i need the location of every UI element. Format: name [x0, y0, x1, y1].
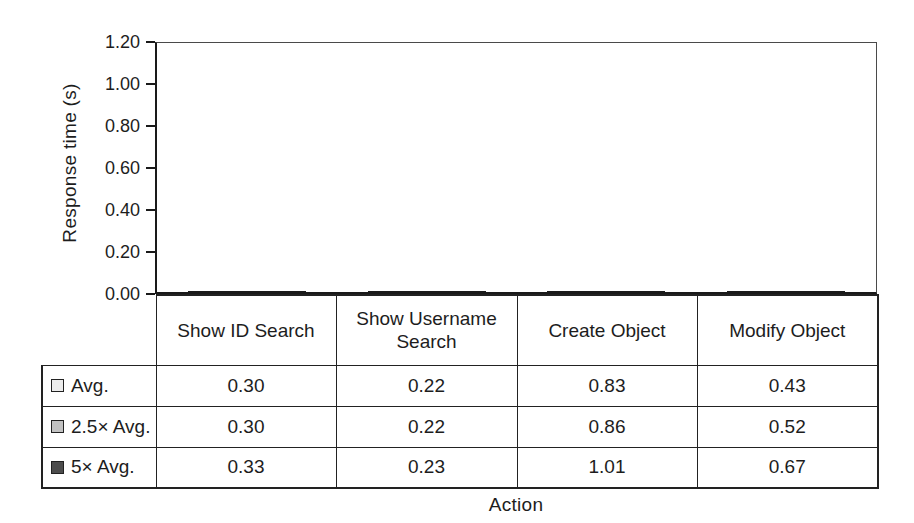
y-axis-title: Response time (s) [59, 83, 81, 242]
x-axis-title: Action [489, 494, 544, 516]
y-axis-tick-labels: 0.000.200.400.600.801.001.20 [88, 42, 140, 294]
value-cell-5-avg-show-id-search: 0.33 [156, 447, 336, 488]
category-header-create-object: Create Object [517, 295, 697, 365]
legend-cell-2-5-avg: 2.5× Avg. [42, 406, 156, 447]
value-cell-5-avg-modify-object: 0.67 [697, 447, 878, 488]
series-row-2-5-avg: 2.5× Avg.0.300.220.860.52 [42, 406, 878, 447]
bar-2-5-avg-show-username-search [407, 291, 447, 292]
bar-group-show-username-search [368, 291, 486, 292]
value-cell-avg-show-id-search: 0.30 [156, 365, 336, 406]
legend-cell-avg: Avg. [42, 365, 156, 406]
bar-chart-figure: Response time (s) 0.000.200.400.600.801.… [0, 0, 914, 523]
y-tick-label-0.40: 0.40 [105, 200, 140, 221]
bar-group-create-object [547, 291, 665, 292]
category-header-show-username-search: Show Username Search [336, 295, 517, 365]
legend-entry: 2.5× Avg. [43, 416, 156, 438]
value-cell-2-5-avg-modify-object: 0.52 [697, 406, 878, 447]
value-cell-2-5-avg-show-id-search: 0.30 [156, 406, 336, 447]
category-header-row: Show ID SearchShow Username SearchCreate… [42, 295, 878, 365]
y-axis-tick-marks [146, 42, 155, 294]
bar-avg-modify-object [727, 291, 767, 292]
y-tick-label-1.00: 1.00 [105, 74, 140, 95]
legend-entry: 5× Avg. [43, 456, 156, 478]
y-tick-label-0.20: 0.20 [105, 241, 140, 262]
plot-area [155, 42, 877, 294]
bar-5-avg-create-object [625, 291, 665, 292]
bar-group-show-id-search [188, 291, 306, 292]
y-tick-mark [146, 83, 155, 85]
bar-5-avg-show-username-search [446, 291, 486, 292]
y-tick-label-0.80: 0.80 [105, 115, 140, 136]
value-cell-2-5-avg-create-object: 0.86 [517, 406, 697, 447]
y-tick-label-0.60: 0.60 [105, 158, 140, 179]
legend-cell-5-avg: 5× Avg. [42, 447, 156, 488]
legend-label: 2.5× Avg. [71, 416, 150, 438]
y-tick-mark [146, 167, 155, 169]
legend-label: 5× Avg. [71, 456, 135, 478]
category-header-label: Create Object [548, 319, 665, 342]
category-header-modify-object: Modify Object [697, 295, 878, 365]
bar-2-5-avg-show-id-search [227, 291, 267, 292]
legend-swatch-avg [51, 379, 64, 392]
bar-group-modify-object [727, 291, 845, 292]
y-tick-mark [146, 41, 155, 43]
bar-5-avg-show-id-search [266, 291, 306, 292]
bar-avg-show-id-search [188, 291, 228, 292]
value-cell-5-avg-create-object: 1.01 [517, 447, 697, 488]
category-header-show-id-search: Show ID Search [156, 295, 336, 365]
y-tick-mark [146, 251, 155, 253]
y-tick-mark [146, 209, 155, 211]
bar-2-5-avg-create-object [586, 291, 626, 292]
series-row-avg: Avg.0.300.220.830.43 [42, 365, 878, 406]
value-cell-avg-create-object: 0.83 [517, 365, 697, 406]
bar-5-avg-modify-object [805, 291, 845, 292]
y-tick-mark [146, 125, 155, 127]
bar-avg-show-username-search [368, 291, 408, 292]
series-row-5-avg: 5× Avg.0.330.231.010.67 [42, 447, 878, 488]
legend-entry: Avg. [43, 375, 156, 397]
value-cell-2-5-avg-show-username-search: 0.22 [336, 406, 517, 447]
category-header-label: Modify Object [729, 319, 845, 342]
data-table-legend: Show ID SearchShow Username SearchCreate… [41, 294, 879, 489]
legend-swatch-2-5-avg [51, 420, 64, 433]
y-tick-label-1.20: 1.20 [105, 32, 140, 53]
value-cell-avg-modify-object: 0.43 [697, 365, 878, 406]
value-cell-avg-show-username-search: 0.22 [336, 365, 517, 406]
legend-label: Avg. [71, 375, 109, 397]
category-header-label: Show Username Search [346, 307, 508, 353]
legend-swatch-5-avg [51, 461, 64, 474]
table-corner-cell [42, 295, 156, 365]
category-header-label: Show ID Search [177, 319, 314, 342]
value-cell-5-avg-show-username-search: 0.23 [336, 447, 517, 488]
bar-avg-create-object [547, 291, 587, 292]
bar-2-5-avg-modify-object [766, 291, 806, 292]
